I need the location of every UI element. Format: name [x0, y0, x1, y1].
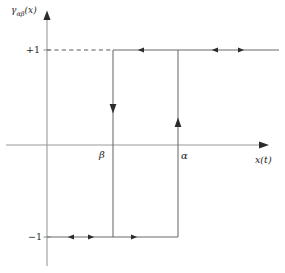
y-axis-arrowhead: [43, 11, 50, 21]
switch-down-at-beta-arrowhead: [110, 104, 117, 114]
x-axis-arrowhead: [259, 141, 269, 148]
x-tick-label-alpha: α: [181, 151, 188, 161]
x-tick-label-beta: β: [99, 150, 105, 160]
y-tick-label-plus-one: +1: [26, 45, 40, 55]
y-axis-label-argument: (x): [25, 5, 37, 15]
figure-canvas: [0, 0, 285, 273]
y-axis-label-subscript: αβ: [16, 10, 24, 18]
x-axis-label: x(t): [255, 155, 272, 165]
axis-group: [6, 11, 269, 267]
y-axis-label: γαβ(x): [11, 6, 37, 17]
switch-up-at-alpha-arrowhead: [175, 118, 182, 128]
hysteresis-relay-figure: γαβ(x) +1 −1 β α x(t): [0, 0, 285, 273]
y-tick-label-minus-one: −1: [28, 232, 42, 242]
